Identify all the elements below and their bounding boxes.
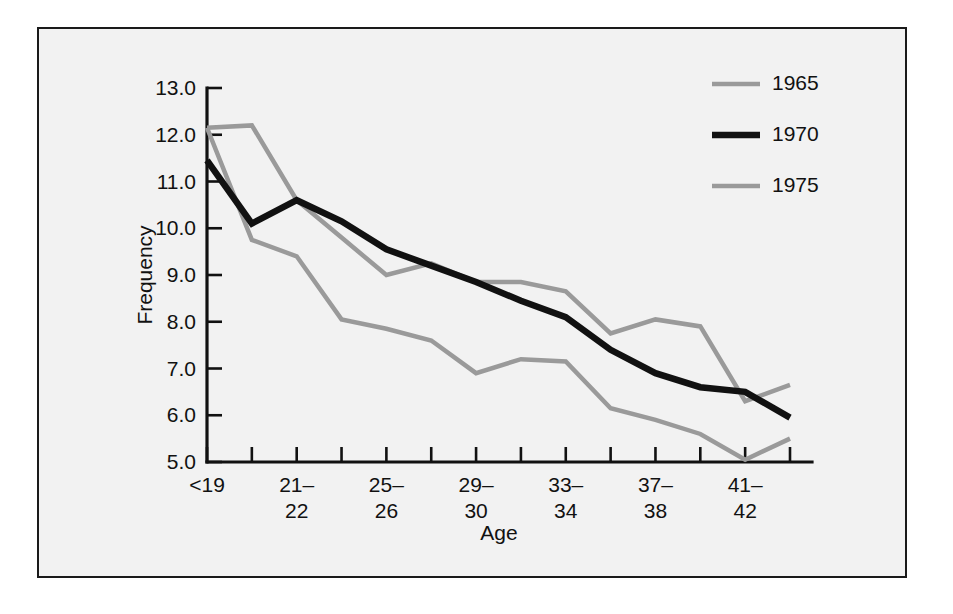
- figure-frame-border: [37, 27, 907, 578]
- figure-root: Frequency Age 13.012.011.010.09.08.07.06…: [0, 0, 953, 614]
